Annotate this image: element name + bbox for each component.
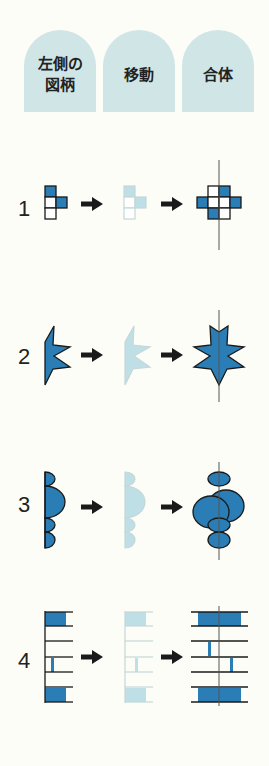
row3-left-figure [45,472,65,548]
row3-moved-figure [125,472,145,548]
row1-combined-figure [197,160,241,250]
row2-left-figure [45,326,70,385]
diagram-canvas [0,0,269,766]
arrow-icon [161,500,183,514]
row2-combined-figure [194,310,244,402]
arrow-icon [161,197,183,211]
row1-left-figure [45,186,67,219]
arrow-icon [81,650,103,664]
arrow-icon [81,197,103,211]
arrow-icon [81,348,103,362]
row3-combined-figure [193,462,244,560]
arrow-icon [161,650,183,664]
arrow-icon [161,348,183,362]
row4-combined-figure [191,606,248,706]
row4-left-figure [45,611,73,703]
arrow-icon [81,500,103,514]
row2-moved-figure [125,326,150,385]
row4-moved-figure [125,611,153,703]
row1-moved-figure [124,186,146,219]
